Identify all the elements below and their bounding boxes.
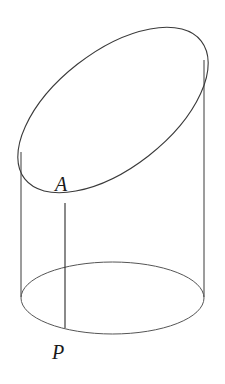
- label-P: P: [52, 342, 64, 362]
- label-A: A: [55, 174, 67, 194]
- cut-plane-ellipse: [0, 0, 225, 225]
- cylinder-diagram: A P: [0, 0, 225, 384]
- base-ellipse: [21, 262, 204, 334]
- diagram-canvas: [0, 0, 225, 384]
